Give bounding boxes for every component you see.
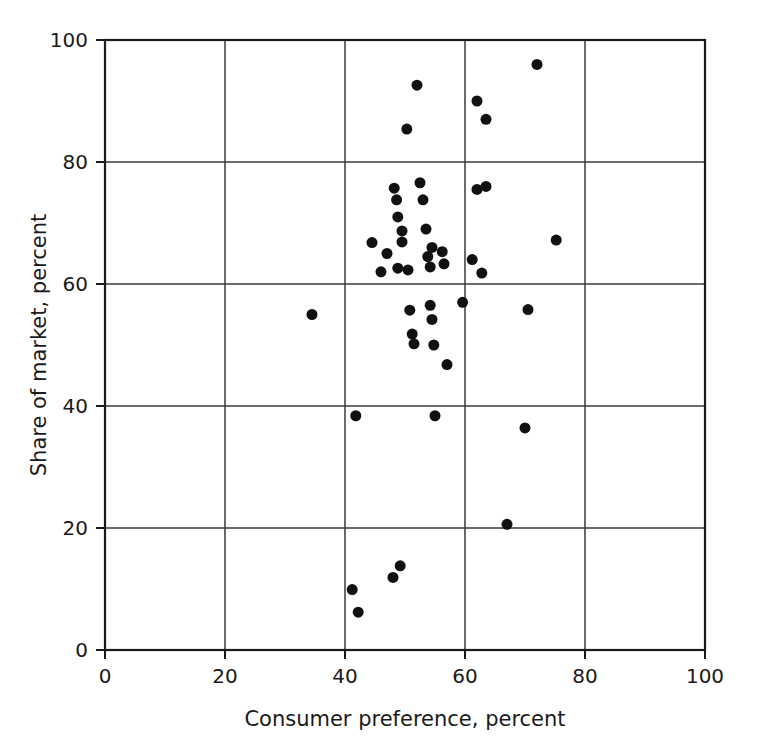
y-tick-label: 80	[63, 150, 88, 174]
data-point	[472, 96, 483, 107]
y-tick-label: 20	[63, 516, 88, 540]
y-tick-label: 0	[75, 638, 88, 662]
data-point	[430, 410, 441, 421]
data-point	[427, 242, 438, 253]
data-point	[421, 224, 432, 235]
data-point	[397, 225, 408, 236]
data-point	[350, 410, 361, 421]
y-tick-label: 100	[50, 28, 88, 52]
data-point	[397, 236, 408, 247]
data-point	[439, 258, 450, 269]
data-point	[425, 300, 436, 311]
data-point	[307, 309, 318, 320]
data-point	[395, 560, 406, 571]
data-point	[442, 359, 453, 370]
data-point	[428, 340, 439, 351]
y-axis-title: Share of market, percent	[27, 214, 51, 477]
scatter-plot-figure: 020406080100 020406080100 Consumer prefe…	[0, 0, 759, 746]
data-point	[412, 80, 423, 91]
data-point	[551, 235, 562, 246]
data-point	[476, 268, 487, 279]
data-point	[392, 263, 403, 274]
x-tick-label: 80	[572, 664, 597, 688]
y-axis-tick-labels: 020406080100	[50, 28, 88, 662]
data-point	[376, 266, 387, 277]
data-point	[367, 237, 378, 248]
y-tick-label: 40	[63, 394, 88, 418]
x-tick-label: 40	[332, 664, 357, 688]
data-point	[532, 59, 543, 70]
data-point	[404, 305, 415, 316]
data-point	[437, 246, 448, 257]
x-tick-label: 60	[452, 664, 477, 688]
data-point	[388, 572, 399, 583]
data-point	[467, 254, 478, 265]
data-point	[520, 422, 531, 433]
data-point	[481, 114, 492, 125]
data-point	[457, 297, 468, 308]
data-point	[389, 183, 400, 194]
data-point	[407, 329, 418, 340]
data-point	[502, 519, 513, 530]
x-axis-title: Consumer preference, percent	[244, 707, 565, 731]
data-point	[415, 177, 426, 188]
x-tick-label: 0	[99, 664, 112, 688]
data-point	[409, 338, 420, 349]
data-point	[347, 584, 358, 595]
data-point	[391, 194, 402, 205]
data-point	[392, 211, 403, 222]
x-axis-tick-labels: 020406080100	[99, 664, 724, 688]
data-point	[401, 124, 412, 135]
data-point	[523, 304, 534, 315]
data-point	[427, 314, 438, 325]
x-tick-label: 20	[212, 664, 237, 688]
data-point	[425, 261, 436, 272]
x-tick-label: 100	[686, 664, 724, 688]
data-point	[481, 181, 492, 192]
data-point	[418, 194, 429, 205]
data-point	[382, 248, 393, 259]
chart-canvas: 020406080100 020406080100 Consumer prefe…	[0, 0, 759, 746]
y-tick-label: 60	[63, 272, 88, 296]
data-point	[403, 264, 414, 275]
data-point	[353, 607, 364, 618]
